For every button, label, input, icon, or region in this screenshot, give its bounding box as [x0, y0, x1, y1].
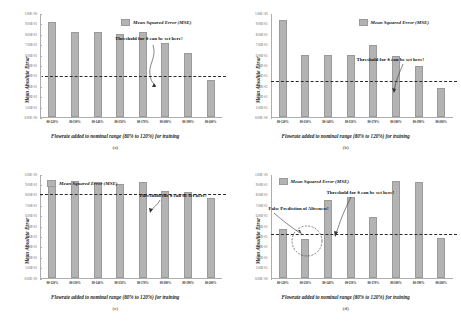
x-axis-line-a — [40, 117, 222, 118]
y-tick-label: 1.00E-01 — [25, 106, 40, 110]
panel-caption-a: (a) — [0, 145, 231, 150]
bar — [324, 200, 332, 277]
x-tick-label: 80-190% — [177, 120, 200, 124]
bar-slot — [177, 14, 200, 117]
bar-slot — [177, 175, 200, 278]
bar-group-a — [41, 14, 222, 117]
bar — [437, 88, 445, 117]
bar-slot — [41, 175, 64, 278]
plot-area-b: 0.00E+001.00E-012.00E-013.00E-014.00E-01… — [271, 14, 453, 118]
bar-slot — [294, 175, 317, 278]
plot-area-a: 0.00E+001.00E-012.00E-013.00E-014.00E-01… — [40, 14, 222, 118]
legend-b: Mean Squared Error (MSE) — [359, 19, 430, 26]
legend-swatch-icon — [47, 180, 56, 187]
x-ticks-d: 80-120%80-130%80-140%80-150%80-170%80-18… — [272, 281, 453, 285]
bar — [207, 80, 215, 117]
legend-label-c: Mean Squared Error (MSE) — [59, 181, 118, 186]
bar — [48, 184, 56, 278]
bar-slot — [430, 14, 453, 117]
y-tick-label: 2.00E-01 — [256, 95, 271, 99]
y-tick-label: 3.00E-01 — [256, 245, 271, 249]
x-tick-label: 80-200% — [199, 120, 222, 124]
y-tick-label: 4.00E-01 — [256, 235, 271, 239]
bar-slot — [272, 175, 295, 278]
y-tick-label: 7.00E-01 — [25, 43, 40, 47]
legend-swatch-icon — [359, 19, 368, 26]
bar-slot — [317, 14, 340, 117]
bar-slot — [86, 14, 109, 117]
x-tick-label: 80-200% — [430, 120, 453, 124]
threshold-line-d — [271, 234, 457, 235]
bar-slot — [154, 14, 177, 117]
x-ticks-a: 80-120%80-130%80-140%80-150%80-170%80-18… — [41, 120, 222, 124]
x-tick-label: 80-120% — [41, 281, 64, 285]
y-tick-label: 0.00E+00 — [255, 277, 271, 281]
x-tick-label: 80-150% — [339, 281, 362, 285]
x-tick-label: 80-190% — [407, 281, 430, 285]
x-tick-label: 80-150% — [339, 120, 362, 124]
false-prediction-annotation-d: False Prediction of Aliveness! — [269, 206, 329, 211]
bar — [116, 184, 124, 278]
y-tick-label: 8.00E-01 — [256, 193, 271, 197]
bar — [71, 32, 79, 117]
y-tick-label: 6.00E-01 — [256, 54, 271, 58]
bar-group-b — [272, 14, 453, 117]
bar — [48, 22, 56, 117]
threshold-annotation-d: Threshold for δ can be set here! — [327, 190, 395, 195]
figure-grid: Mean Absolute Error 0.00E+001.00E-012.00… — [0, 0, 461, 321]
legend-c: Mean Squared Error (MSE) — [47, 180, 118, 187]
bar — [301, 55, 309, 117]
threshold-annotation-a: Threshold for δ can be set here! — [115, 36, 183, 41]
y-tick-label: 1.00E-01 — [256, 106, 271, 110]
y-tick-label: 2.00E-01 — [256, 256, 271, 260]
y-tick-label: 4.00E-01 — [256, 74, 271, 78]
threshold-line-a — [40, 76, 226, 77]
y-tick-label: 0.00E+00 — [255, 116, 271, 120]
bar — [301, 239, 309, 277]
x-axis-title-b: Flowrate added to nominal range (80% to … — [231, 133, 461, 139]
y-tick-label: 8.00E-01 — [25, 33, 40, 37]
x-tick-label: 80-180% — [154, 281, 177, 285]
y-tick-label: 0.00E+00 — [24, 277, 40, 281]
y-tick-label: 5.00E-01 — [256, 225, 271, 229]
legend-label-a: Mean Squared Error (MSE) — [133, 20, 192, 25]
y-tick-label: 1.00E+00 — [24, 173, 40, 177]
x-tick-label: 80-130% — [64, 120, 87, 124]
x-axis-line-c — [40, 278, 222, 279]
x-tick-label: 80-200% — [199, 281, 222, 285]
legend-swatch-icon — [279, 178, 288, 185]
y-tick-label: 5.00E-01 — [25, 225, 40, 229]
y-tick-label: 1.00E+00 — [24, 12, 40, 16]
bar — [161, 43, 169, 117]
x-tick-label: 80-170% — [132, 120, 155, 124]
bar — [324, 55, 332, 117]
panel-d: Mean Absolute Error 0.00E+001.00E-012.00… — [231, 161, 461, 321]
x-axis-title-d: Flowrate added to nominal range (80% to … — [231, 294, 461, 300]
x-ticks-b: 80-120%80-130%80-140%80-150%80-170%80-18… — [272, 120, 453, 124]
bar — [184, 192, 192, 277]
legend-a: Mean Squared Error (MSE) — [121, 19, 192, 26]
y-tick-label: 6.00E-01 — [25, 54, 40, 58]
x-ticks-c: 80-120%80-130%80-140%80-150%80-170%80-18… — [41, 281, 222, 285]
bar-slot — [64, 14, 87, 117]
y-tick-label: 8.00E-01 — [25, 193, 40, 197]
bar — [415, 182, 423, 278]
bar-slot — [430, 175, 453, 278]
x-tick-label: 80-150% — [109, 120, 132, 124]
panel-caption-d: (d) — [231, 306, 461, 311]
y-tick-label: 7.00E-01 — [25, 204, 40, 208]
bar — [347, 55, 355, 117]
panel-b: Mean Absolute Error 0.00E+001.00E-012.00… — [231, 0, 461, 161]
x-axis-line-b — [271, 117, 453, 118]
bar-slot — [64, 175, 87, 278]
y-tick-label: 6.00E-01 — [256, 214, 271, 218]
y-tick-label: 3.00E-01 — [25, 245, 40, 249]
bar-slot — [407, 14, 430, 117]
bar — [369, 217, 377, 278]
bar-slot — [362, 14, 385, 117]
y-tick-label: 0.00E+00 — [24, 116, 40, 120]
bar — [94, 182, 102, 278]
bar-slot — [385, 14, 408, 117]
bar-slot — [109, 14, 132, 117]
x-axis-line-d — [271, 278, 453, 279]
